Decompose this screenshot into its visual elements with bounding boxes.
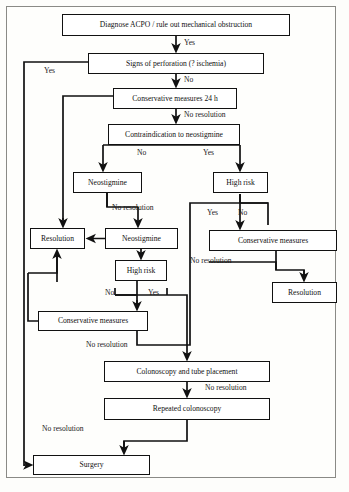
edge-label-no-perforation: No	[184, 75, 193, 84]
node-conservative-measures-24h[interactable]: Conservative measures 24 h	[113, 88, 237, 109]
node-neostigmine-2[interactable]: Neostigmine	[105, 228, 178, 249]
edge-label-no-resolution-neostigmine-1: No resolution	[112, 203, 154, 212]
node-conservative-measures-24h-label: Conservative measures 24 h	[130, 95, 219, 103]
node-colonoscopy-label: Colonoscopy and tube placement	[134, 368, 239, 376]
edge-label-yes-high-risk-1: Yes	[207, 208, 218, 217]
node-diagnose-label: Diagnose ACPO / rule out mechanical obst…	[98, 21, 254, 29]
edge-label-no-resolution-repeated: No resolution	[42, 424, 84, 433]
edge-label-no-resolution-cons-right: No resolution	[190, 256, 232, 265]
node-contraindication-label: Contraindication to neostigmine	[123, 131, 225, 139]
node-resolution-1-label: Resolution	[39, 235, 76, 243]
edge-label-yes-high-risk-2: Yes	[148, 288, 159, 297]
edge-label-yes-diagnose: Yes	[184, 38, 195, 47]
node-resolution-2-label: Resolution	[286, 289, 323, 297]
node-conservative-measures-right[interactable]: Conservative measures	[209, 230, 337, 251]
node-resolution-1[interactable]: Resolution	[30, 228, 85, 249]
node-signs-of-perforation[interactable]: Signs of perforation (? ischemia)	[88, 53, 264, 74]
edge-label-yes-perforation: Yes	[44, 66, 55, 75]
edge-label-yes-contraindication: Yes	[203, 148, 214, 157]
node-high-risk-2[interactable]: High risk	[115, 260, 167, 281]
node-high-risk-1-label: High risk	[224, 179, 256, 187]
edge-label-no-resolution-cons-bottom-left: No resolution	[86, 340, 128, 349]
edge-label-no-resolution-cons24: No resolution	[184, 110, 226, 119]
node-diagnose[interactable]: Diagnose ACPO / rule out mechanical obst…	[62, 14, 290, 36]
node-repeated-colonoscopy-label: Repeated colonoscopy	[151, 405, 224, 413]
node-high-risk-2-label: High risk	[125, 267, 157, 275]
node-surgery-label: Surgery	[78, 461, 106, 469]
node-repeated-colonoscopy[interactable]: Repeated colonoscopy	[104, 398, 270, 420]
node-conservative-measures-bottom-left[interactable]: Conservative measures	[38, 311, 148, 331]
edge-label-no-contraindication: No	[137, 148, 146, 157]
flowchart-page: Diagnose ACPO / rule out mechanical obst…	[0, 0, 349, 492]
node-conservative-measures-right-label: Conservative measures	[236, 237, 310, 245]
node-neostigmine-2-label: Neostigmine	[120, 235, 163, 243]
node-neostigmine-1[interactable]: Neostigmine	[73, 172, 142, 193]
edge-label-no-high-risk-2: No	[105, 288, 114, 297]
node-surgery[interactable]: Surgery	[33, 455, 150, 475]
node-neostigmine-1-label: Neostigmine	[86, 179, 129, 187]
node-resolution-2[interactable]: Resolution	[272, 282, 337, 303]
node-conservative-measures-bottom-left-label: Conservative measures	[56, 317, 130, 325]
node-signs-of-perforation-label: Signs of perforation (? ischemia)	[124, 60, 228, 68]
edge-label-no-high-risk-1: No	[238, 208, 247, 217]
node-contraindication-to-neostigmine[interactable]: Contraindication to neostigmine	[108, 124, 240, 145]
node-colonoscopy-and-tube-placement[interactable]: Colonoscopy and tube placement	[104, 361, 270, 382]
edge-label-no-resolution-colonoscopy: No resolution	[205, 383, 247, 392]
node-high-risk-1[interactable]: High risk	[213, 172, 268, 193]
